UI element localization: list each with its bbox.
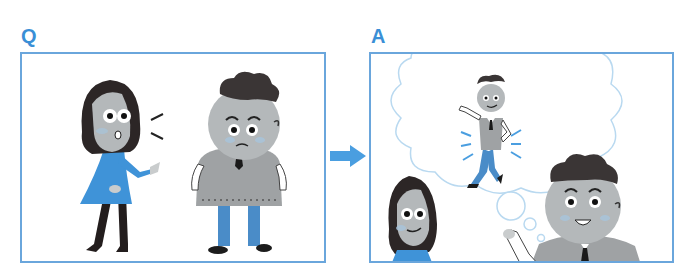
question-illustration: [22, 54, 326, 263]
woman-figure: [80, 80, 163, 252]
right-arrow-icon: [330, 145, 366, 167]
worried-man-figure: [192, 72, 287, 254]
answer-illustration: [371, 54, 674, 263]
question-label: Q: [21, 26, 37, 46]
answer-panel: [369, 52, 674, 263]
question-panel: [20, 52, 326, 263]
answer-label: A: [371, 26, 385, 46]
smiling-woman-figure: [388, 176, 437, 263]
